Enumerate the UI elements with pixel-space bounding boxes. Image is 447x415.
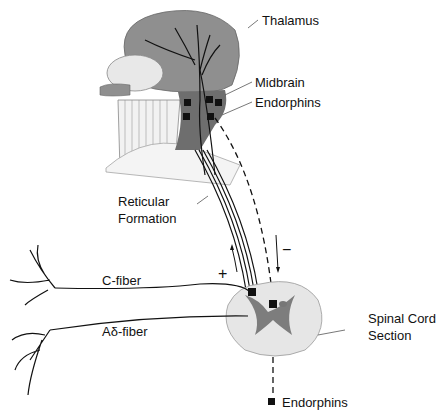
- label-reticular-1: Reticular: [118, 194, 169, 209]
- label-c-fiber: C-fiber: [102, 273, 141, 288]
- label-spinal-1: Spinal Cord: [368, 311, 436, 326]
- label-a-delta-fiber: Aδ-fiber: [102, 324, 148, 339]
- label-endorphins-top: Endorphins: [255, 95, 321, 110]
- spinal-cord-section: [226, 282, 322, 405]
- label-reticular-2: Formation: [118, 211, 177, 226]
- pain-pathway-diagram: [0, 0, 447, 415]
- label-spinal-2: Section: [368, 328, 411, 343]
- label-endorphins-bottom: Endorphins: [282, 395, 348, 410]
- label-thalamus: Thalamus: [262, 13, 319, 28]
- label-plus: +: [218, 266, 227, 281]
- label-midbrain: Midbrain: [255, 75, 305, 90]
- nerve-fibers: [10, 245, 250, 395]
- label-minus: −: [282, 242, 291, 257]
